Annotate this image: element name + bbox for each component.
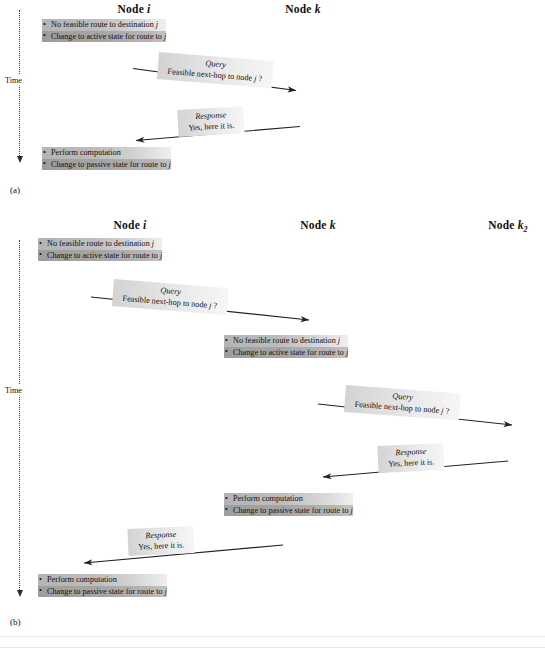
message-body-suffix: ? (211, 301, 217, 310)
event-text: Change to passive state for route to (47, 587, 165, 596)
event-var: j (351, 506, 353, 515)
node-header-var: k (330, 219, 336, 231)
event-line: No feasible route to destination j (38, 238, 162, 250)
page-divider (0, 647, 545, 648)
event-text: Change to active state for route to (233, 348, 346, 357)
figure-caption-b: (b) (10, 617, 21, 627)
event-line: No feasible route to destination j (224, 335, 348, 347)
event-line: Change to passive state for route to j (224, 505, 353, 517)
event-var: j (152, 239, 154, 248)
message-body-text: Yes, here it is. (388, 457, 435, 468)
event-text: Perform computation (233, 494, 303, 503)
message-response-k-to-i: Response Yes, here it is. (127, 526, 194, 556)
event-text: Perform computation (47, 575, 117, 584)
node-header-sub: 2 (524, 225, 528, 234)
event-line: Change to active state for route to j (38, 250, 162, 262)
event-var: j (160, 251, 162, 260)
event-text: Change to passive state for route to (233, 506, 351, 515)
event-node-k-passive: Perform computation Change to passive st… (222, 491, 356, 518)
event-var: j (165, 587, 167, 596)
event-text: Change to active state for route to (47, 251, 160, 260)
event-node-i-passive: Perform computation Change to passive st… (36, 572, 170, 599)
event-text: No feasible route to destination (233, 336, 338, 345)
event-node-i-active: No feasible route to destination j Chang… (36, 236, 165, 263)
event-line: Perform computation (224, 493, 353, 505)
event-var: j (338, 336, 340, 345)
event-line: Change to passive state for route to j (38, 586, 167, 598)
message-body-text: Yes, here it is. (138, 540, 185, 551)
event-line: Change to active state for route to j (224, 347, 348, 359)
node-header-prefix: Node (114, 219, 143, 231)
message-response-k2-to-k: Response Yes, here it is. (377, 443, 444, 473)
node-header-i: Node i (114, 219, 147, 231)
message-body: Yes, here it is. (138, 539, 185, 552)
node-header-prefix: Node (300, 219, 329, 231)
panel-b: Node i Node k Node k2 Time No feasible r… (0, 0, 545, 649)
event-node-k-active: No feasible route to destination j Chang… (222, 333, 351, 360)
message-body-suffix: ? (443, 406, 449, 415)
event-line: Perform computation (38, 574, 167, 586)
message-query-k-to-k2: Query Feasible next-hop to node j ? (344, 385, 461, 420)
page-divider (0, 636, 545, 637)
time-axis-arrowhead (17, 590, 23, 597)
time-axis (19, 240, 21, 592)
event-text: No feasible route to destination (47, 239, 152, 248)
node-header-var: i (143, 219, 146, 231)
message-query-i-to-k: Query Feasible next-hop to node j ? (112, 279, 229, 315)
node-header-k2: Node k2 (488, 219, 528, 231)
time-axis-label: Time (3, 385, 24, 396)
message-body: Yes, here it is. (388, 456, 435, 469)
node-header-k: Node k (300, 219, 335, 231)
figure-canvas: Node i Node k Time No feasible route to … (0, 0, 545, 649)
node-header-prefix: Node (488, 219, 517, 231)
event-var: j (346, 348, 348, 357)
